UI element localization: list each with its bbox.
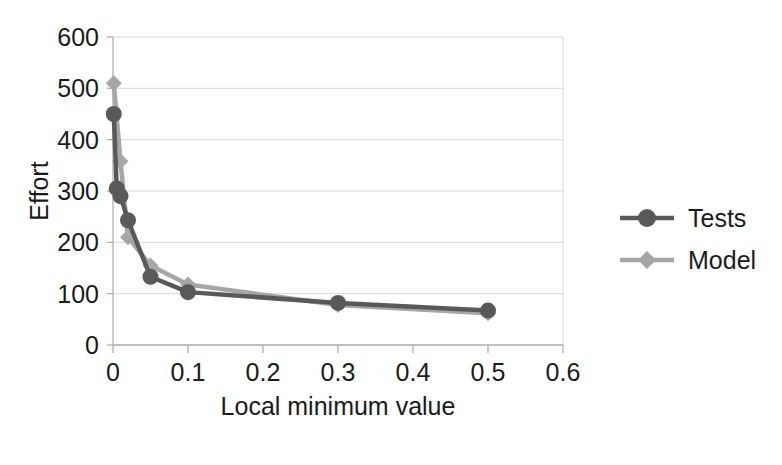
y-tick-label: 0 — [85, 331, 99, 359]
data-point-tests — [120, 212, 136, 228]
legend-label: Model — [688, 246, 756, 274]
data-point-tests — [180, 284, 196, 300]
x-tick-label: 0.5 — [471, 358, 506, 386]
y-tick-label: 200 — [57, 228, 99, 256]
y-tick-label: 100 — [57, 280, 99, 308]
data-point-tests — [143, 269, 159, 285]
legend-marker-tests — [638, 209, 656, 227]
x-tick-label: 0.2 — [246, 358, 281, 386]
y-tick-label: 300 — [57, 177, 99, 205]
data-point-tests — [106, 106, 122, 122]
y-tick-label: 400 — [57, 126, 99, 154]
x-tick-label: 0.4 — [396, 358, 431, 386]
x-tick-label: 0 — [106, 358, 120, 386]
x-tick-label: 0.6 — [546, 358, 581, 386]
y-axis-title: Effort — [25, 161, 53, 220]
x-tick-label: 0.3 — [321, 358, 356, 386]
data-point-tests — [330, 295, 346, 311]
data-point-tests — [113, 188, 129, 204]
effort-vs-local-minimum-line-chart: 0100200300400500600 00.10.20.30.40.50.6 … — [0, 0, 782, 465]
y-tick-label: 600 — [57, 23, 99, 51]
y-tick-label: 500 — [57, 74, 99, 102]
x-axis-title: Local minimum value — [221, 392, 456, 420]
legend-label: Tests — [688, 204, 746, 232]
chart-container: 0100200300400500600 00.10.20.30.40.50.6 … — [0, 0, 782, 465]
data-point-tests — [480, 303, 496, 319]
x-tick-label: 0.1 — [171, 358, 206, 386]
